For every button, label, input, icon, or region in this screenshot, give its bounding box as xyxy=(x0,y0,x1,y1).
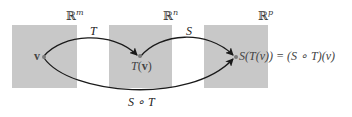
point-STv xyxy=(234,55,238,59)
point-v xyxy=(42,55,46,59)
point-Tv xyxy=(138,54,142,58)
arrow-T xyxy=(44,38,137,56)
map-label-S: S xyxy=(186,24,192,39)
point-label-result: S(T(v)) = (S ∘ T)(v) xyxy=(239,49,335,64)
point-label-v: v xyxy=(34,49,40,64)
point-label-Tv: T(v) xyxy=(131,59,152,74)
map-label-composite: S ∘ T xyxy=(128,95,155,110)
map-label-T: T xyxy=(90,24,97,39)
arrow-S xyxy=(140,37,233,57)
